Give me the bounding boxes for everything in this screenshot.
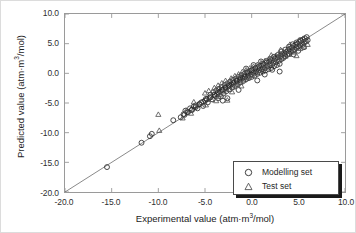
y-tick-label: -5.0 (21, 98, 59, 108)
x-tick-label: -15.0 (102, 197, 121, 207)
data-point-circle (139, 140, 144, 145)
data-point-circle (255, 78, 260, 83)
legend-entry-modelling-set: Modelling set (238, 165, 334, 179)
x-tick-label: -20.0 (55, 197, 74, 207)
x-tick-label: 10.0 (338, 197, 354, 207)
y-axis-title-exponent: 3 (13, 56, 20, 60)
legend-entry-test-set: Test set (238, 179, 334, 193)
x-axis-title-post: /mol) (253, 213, 274, 224)
y-tick-label: -10.0 (21, 128, 59, 138)
data-point-triangle (206, 88, 211, 93)
y-tick-label: -15.0 (21, 158, 59, 168)
data-point-triangle (156, 112, 161, 117)
y-tick-label: -20.0 (21, 188, 59, 198)
triangle-marker-icon (238, 182, 258, 191)
x-axis-title: Experimental value (atm·m3/mol) (64, 213, 346, 224)
y-tick-label: 0.0 (21, 68, 59, 78)
figure-container: 10.05.00.0-5.0-10.0-15.0-20.0 -20.0-15.0… (0, 0, 356, 233)
y-axis-title: Predicted value (atm·m3/mol) (15, 2, 26, 192)
x-tick-label: -5.0 (198, 197, 212, 207)
series-modelling-set (105, 35, 311, 170)
legend: Modelling set Test set (233, 161, 339, 195)
y-axis-title-pre: Predicted value (atm·m (15, 60, 26, 158)
x-axis-title-pre: Experimental value (atm·m (136, 213, 250, 224)
y-axis-title-post: /mol) (15, 35, 26, 56)
data-point-circle (277, 69, 282, 74)
data-point-circle (171, 118, 176, 123)
y-tick-label: 10.0 (21, 8, 59, 18)
y-tick-label: 5.0 (21, 38, 59, 48)
legend-label-modelling-set: Modelling set (258, 167, 312, 177)
x-tick-label: 0.0 (246, 197, 258, 207)
x-tick-label: 5.0 (293, 197, 305, 207)
circle-marker-icon (238, 168, 258, 177)
x-tick-label: -10.0 (149, 197, 168, 207)
legend-label-test-set: Test set (258, 181, 291, 191)
